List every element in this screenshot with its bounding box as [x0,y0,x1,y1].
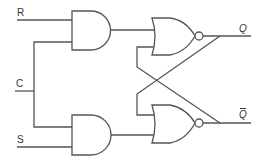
and-gate-bottom [72,115,111,155]
wire-c-bus [34,42,72,127]
label-s: S [17,135,24,145]
sr-latch-diagram [0,0,262,162]
and-gate-top [72,11,111,50]
nor-bottom-bubble [195,119,203,127]
label-r: R [17,8,24,18]
label-c: C [16,79,23,89]
label-q: Q [239,24,247,34]
nor-gate-bottom [152,105,195,143]
nor-gate-top [152,18,195,55]
label-q-bar: Q [239,108,247,120]
label-q-bar-text: Q [239,109,247,120]
nor-top-bubble [195,32,203,40]
